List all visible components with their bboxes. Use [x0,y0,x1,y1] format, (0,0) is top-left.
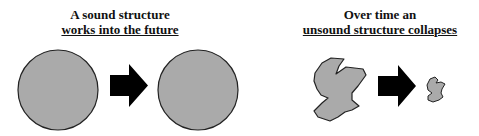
arrow-right-icon [378,65,416,107]
sound-circle-before [18,50,98,130]
unsound-blob-small [427,77,445,102]
arrow-right-icon [110,64,148,107]
sound-structure-group [18,50,238,130]
diagram-canvas [0,0,479,136]
sound-circle-after [158,50,238,130]
unsound-structure-group [314,58,445,121]
unsound-blob-large [314,58,366,121]
